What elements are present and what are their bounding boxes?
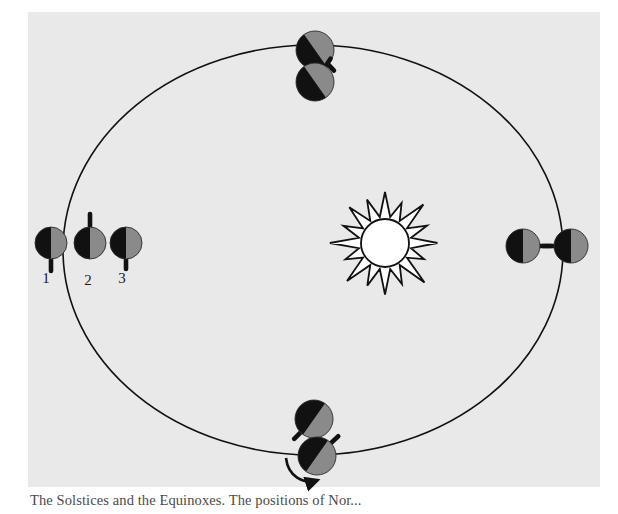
earth-left-inner bbox=[110, 227, 142, 269]
position-label-1: 1 bbox=[42, 270, 50, 286]
orbit-diagram: 123 bbox=[0, 0, 618, 514]
earth-left-outer bbox=[35, 227, 67, 271]
earth-left-middle bbox=[74, 214, 106, 259]
earth-top-inner bbox=[296, 59, 334, 101]
figure-root: 123 The Solstices and the Equinoxes. The… bbox=[0, 0, 618, 514]
earth-bottom-inner bbox=[298, 436, 338, 475]
position-label-3: 3 bbox=[118, 270, 126, 286]
earth-right-outer bbox=[543, 229, 588, 263]
sun-icon bbox=[330, 192, 438, 295]
earth-globes bbox=[35, 31, 588, 475]
earth-bottom-outer bbox=[294, 400, 333, 439]
figure-caption: The Solstices and the Equinoxes. The pos… bbox=[30, 492, 600, 509]
position-labels: 123 bbox=[42, 270, 126, 288]
position-label-2: 2 bbox=[84, 272, 92, 288]
